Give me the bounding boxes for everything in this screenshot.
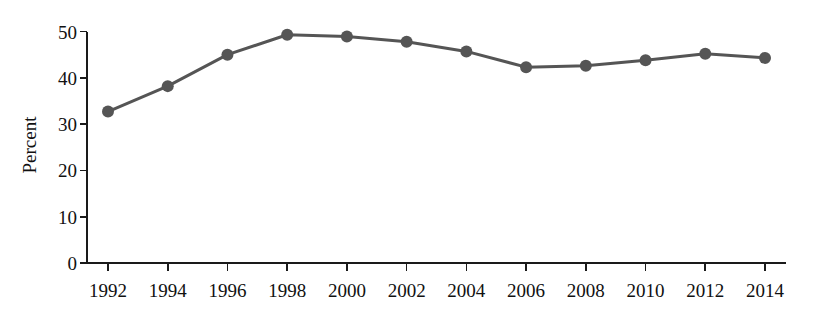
data-point-marker xyxy=(102,106,114,118)
data-point-marker xyxy=(640,54,652,66)
x-axis-tick-label: 2006 xyxy=(507,281,545,300)
data-point-marker xyxy=(699,48,711,60)
x-axis-tick-label: 2000 xyxy=(328,281,366,300)
data-point-marker xyxy=(341,31,353,43)
line-chart: 01020304050 1992199419961998200020022004… xyxy=(0,0,823,318)
data-point-marker xyxy=(520,61,532,73)
x-axis-tick-label: 2008 xyxy=(567,281,605,300)
x-axis-tick-label: 1994 xyxy=(149,281,187,300)
data-point-marker xyxy=(759,52,771,64)
data-point-marker xyxy=(401,36,413,48)
data-point-marker xyxy=(162,80,174,92)
data-point-marker xyxy=(460,45,472,57)
x-axis-tick-label: 1998 xyxy=(268,281,306,300)
axes-group xyxy=(80,32,786,272)
x-axis-tick-label: 2004 xyxy=(447,281,485,300)
y-axis-title: Percent xyxy=(19,117,41,174)
chart-plot-area xyxy=(0,0,823,318)
x-axis-tick-label: 2014 xyxy=(746,281,784,300)
data-series-group xyxy=(102,29,771,118)
x-axis-tick-label: 2002 xyxy=(388,281,426,300)
y-axis-tick-label: 10 xyxy=(39,207,77,226)
data-point-marker xyxy=(221,49,233,61)
data-point-marker xyxy=(580,60,592,72)
y-axis-tick-label: 50 xyxy=(39,22,77,41)
x-axis-tick-label: 1996 xyxy=(208,281,246,300)
y-axis-tick-label: 20 xyxy=(39,161,77,180)
x-axis-tick-label: 2012 xyxy=(686,281,724,300)
y-axis-tick-label: 40 xyxy=(39,68,77,87)
data-line xyxy=(108,35,765,112)
x-axis-tick-label: 1992 xyxy=(89,281,127,300)
y-axis-tick-label: 30 xyxy=(39,115,77,134)
y-axis-tick-label: 0 xyxy=(39,254,77,273)
data-point-marker xyxy=(281,29,293,41)
x-axis-tick-label: 2010 xyxy=(627,281,665,300)
